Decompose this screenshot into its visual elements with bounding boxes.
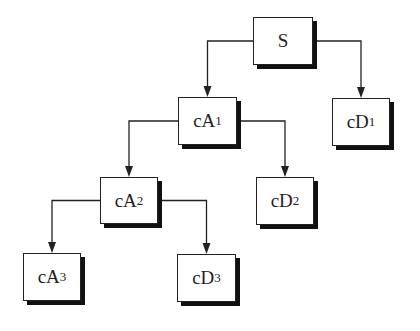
node-ca3: cA3 xyxy=(23,253,81,301)
node-label: cD xyxy=(192,267,214,289)
node-cd2: cD2 xyxy=(256,177,314,225)
edge-s-cd1 xyxy=(316,41,361,89)
decomposition-tree-diagram: ScA1cD1cA2cD2cA3cD3 xyxy=(0,0,420,331)
node-label: cA xyxy=(115,190,137,212)
arrowhead-icon xyxy=(125,166,133,177)
edge-ca1-cd2 xyxy=(240,121,285,168)
arrowhead-icon xyxy=(203,243,211,254)
arrowhead-icon xyxy=(281,166,289,177)
node-label: cD xyxy=(271,190,293,212)
node-ca2: cA2 xyxy=(100,177,158,224)
node-label: cA xyxy=(193,110,215,132)
node-label: S xyxy=(278,30,289,52)
node-label: cA xyxy=(38,266,60,288)
arrowhead-icon xyxy=(204,86,212,97)
arrowhead-icon xyxy=(357,87,365,98)
node-cd1: cD1 xyxy=(332,98,390,146)
edge-ca2-ca3 xyxy=(52,201,100,245)
node-ca1: cA1 xyxy=(178,97,237,145)
node-s: S xyxy=(253,17,313,65)
edge-s-ca1 xyxy=(208,41,254,88)
edge-ca2-cd3 xyxy=(161,201,207,246)
arrowhead-icon xyxy=(48,242,56,253)
node-label: cD xyxy=(347,111,369,133)
edge-ca1-ca2 xyxy=(129,121,178,168)
node-cd3: cD3 xyxy=(177,254,236,302)
